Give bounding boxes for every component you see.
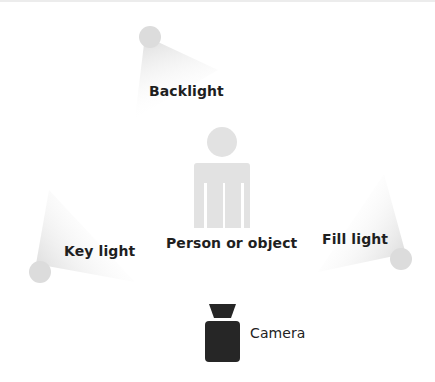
fill-light-source-icon [390, 248, 412, 270]
person-icon [194, 127, 250, 228]
subject-label: Person or object [166, 235, 297, 251]
key-light-beam [36, 190, 135, 282]
fill-light-label: Fill light [322, 231, 388, 247]
camera-label: Camera [250, 325, 306, 341]
key-light-group [29, 190, 135, 283]
fill-light-group [318, 174, 412, 272]
backlight-source-icon [139, 26, 161, 48]
backlight-beam [135, 42, 218, 118]
lighting-diagram [0, 0, 435, 382]
key-light-source-icon [29, 261, 51, 283]
backlight-group [135, 26, 218, 118]
backlight-label: Backlight [149, 83, 224, 99]
key-light-label: Key light [64, 243, 135, 259]
camera-icon [205, 304, 240, 362]
